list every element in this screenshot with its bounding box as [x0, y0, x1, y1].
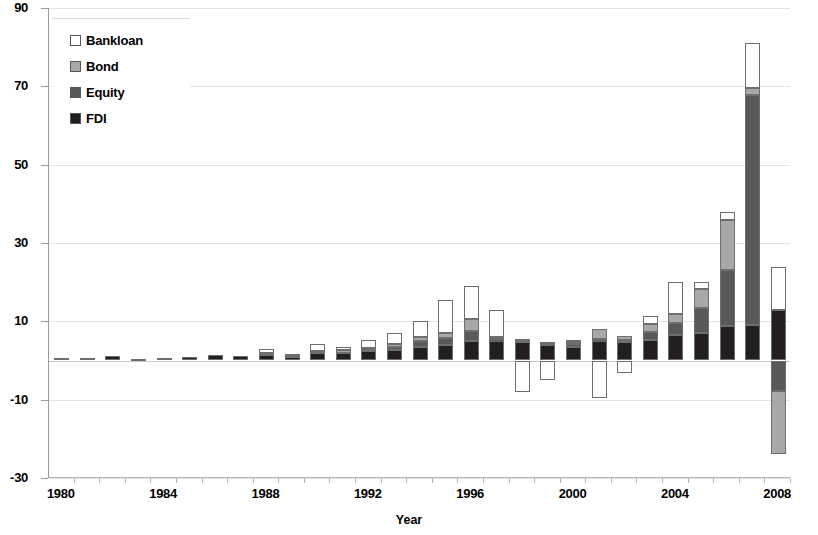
- bar-segment-fdi-1984: [157, 358, 172, 360]
- bar-segment-fdi-2002: [617, 342, 632, 360]
- bar-segment-bond-2006: [720, 220, 735, 270]
- bar-segment-bankloan-1991: [336, 347, 351, 350]
- x-tick-mark-1990: [329, 478, 330, 483]
- bar-segment-bankloan-1992: [361, 340, 376, 347]
- bar-segment-bankloan-1998: [515, 361, 530, 392]
- bar-segment-fdi-2006: [720, 326, 735, 361]
- legend-label-bankloan: Bankloan: [86, 33, 143, 48]
- x-tick-label-1980: 1980: [31, 486, 91, 501]
- bar-segment-fdi-2008: [771, 310, 786, 361]
- bar-segment-bond-1998: [515, 339, 530, 341]
- x-tick-label-1992: 1992: [338, 486, 398, 501]
- bar-segment-bond-1996: [464, 319, 479, 331]
- x-tick-label-2008: 2008: [747, 486, 807, 501]
- y-tick-mark--30: [41, 478, 48, 479]
- x-tick-mark-1997: [509, 478, 510, 483]
- bar-segment-fdi-1991: [336, 353, 351, 360]
- bar-segment-fdi-1996: [464, 341, 479, 361]
- x-tick-mark-2005: [713, 478, 714, 483]
- bar-group-1998: [515, 8, 530, 478]
- bar-group-1997: [489, 8, 504, 478]
- x-tick-mark-1991: [355, 478, 356, 483]
- bar-segment-fdi-1990: [310, 353, 325, 361]
- bar-segment-equity-2008: [771, 361, 786, 392]
- bar-segment-equity-2006: [720, 270, 735, 326]
- x-tick-label-1996: 1996: [440, 486, 500, 501]
- chart-legend: BankloanBondEquityFDI: [52, 18, 190, 133]
- bar-group-1996: [464, 8, 479, 478]
- bar-segment-equity-1996: [464, 331, 479, 341]
- bar-segment-bond-1993: [387, 344, 402, 346]
- bar-group-1990: [310, 8, 325, 478]
- x-tick-mark-2007: [764, 478, 765, 483]
- bar-segment-bankloan-2007: [745, 43, 760, 88]
- bar-segment-equity-2002: [617, 340, 632, 342]
- y-tick-mark--10: [41, 400, 48, 401]
- bar-segment-bond-2005: [694, 289, 709, 308]
- bar-segment-equity-1993: [387, 347, 402, 351]
- bar-group-2007: [745, 8, 760, 478]
- bar-segment-fdi-1980: [54, 358, 69, 360]
- bar-group-1986: [208, 8, 223, 478]
- bar-segment-fdi-1998: [515, 342, 530, 360]
- bar-segment-bond-2001: [592, 329, 607, 339]
- y-tick-label-50: 50: [0, 157, 28, 172]
- x-tick-label-2004: 2004: [645, 486, 705, 501]
- y-tick-mark-70: [41, 86, 48, 87]
- legend-swatch-fdi-icon: [70, 113, 81, 124]
- bar-segment-fdi-1986: [208, 355, 223, 360]
- bar-group-2001: [592, 8, 607, 478]
- bar-group-1995: [438, 8, 453, 478]
- bar-segment-fdi-1994: [413, 347, 428, 360]
- bar-segment-fdi-2007: [745, 325, 760, 361]
- y-tick-mark-10: [41, 321, 48, 322]
- x-tick-mark-1983: [150, 478, 151, 483]
- y-tick-mark-50: [41, 165, 48, 166]
- x-tick-label-1984: 1984: [133, 486, 193, 501]
- bar-segment-fdi-2001: [592, 341, 607, 360]
- bar-segment-bankloan-1994: [413, 321, 428, 337]
- x-tick-mark-1987: [253, 478, 254, 483]
- legend-swatch-equity-icon: [70, 87, 81, 98]
- y-tick-mark-90: [41, 8, 48, 9]
- bar-segment-equity-2001: [592, 339, 607, 341]
- bar-segment-bond-1999: [540, 342, 555, 344]
- x-tick-mark-2002: [636, 478, 637, 483]
- bar-segment-fdi-1982: [105, 356, 120, 360]
- x-tick-mark-1981: [99, 478, 100, 483]
- bar-segment-bankloan-1989: [285, 354, 300, 356]
- bar-segment-fdi-1992: [361, 351, 376, 360]
- bar-segment-fdi-1983: [131, 359, 146, 361]
- bar-group-1988: [259, 8, 274, 478]
- legend-item-bankloan: Bankloan: [52, 27, 190, 53]
- legend-swatch-bond-icon: [70, 61, 81, 72]
- x-tick-mark-1995: [457, 478, 458, 483]
- bar-segment-bond-2008: [771, 391, 786, 454]
- bar-segment-equity-2003: [643, 332, 658, 341]
- legend-item-bond: Bond: [52, 53, 190, 79]
- bar-segment-bond-1991: [336, 350, 351, 352]
- bar-segment-equity-2004: [668, 323, 683, 336]
- bar-segment-fdi-1997: [489, 341, 504, 360]
- x-tick-mark-1999: [560, 478, 561, 483]
- bar-segment-fdi-1999: [540, 345, 555, 360]
- bar-segment-bond-2004: [668, 314, 683, 322]
- legend-label-equity: Equity: [86, 85, 125, 100]
- bar-segment-bankloan-2001: [592, 361, 607, 398]
- x-tick-mark-1985: [202, 478, 203, 483]
- bar-segment-fdi-1987: [233, 356, 248, 360]
- bar-group-2008: [771, 8, 786, 478]
- bar-group-2002: [617, 8, 632, 478]
- y-tick-label--30: -30: [0, 470, 28, 485]
- bar-segment-bankloan-2006: [720, 212, 735, 220]
- x-tick-mark-1986: [227, 478, 228, 483]
- y-tick-label-10: 10: [0, 313, 28, 328]
- bar-segment-bond-2003: [643, 324, 658, 331]
- bar-segment-equity-2005: [694, 308, 709, 333]
- bar-segment-bond-1992: [361, 348, 376, 350]
- bar-segment-bankloan-1990: [310, 344, 325, 351]
- bar-group-1989: [285, 8, 300, 478]
- bar-group-1992: [361, 8, 376, 478]
- bar-segment-fdi-1981: [80, 358, 95, 360]
- bar-segment-bond-1997: [489, 337, 504, 339]
